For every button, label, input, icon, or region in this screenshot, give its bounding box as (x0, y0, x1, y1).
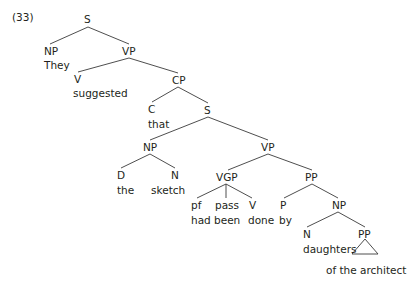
node-n-embedded: N (171, 169, 179, 181)
word-suggested: suggested (73, 87, 128, 99)
node-v-main: V (74, 73, 81, 85)
node-pp-inner: PP (358, 228, 371, 240)
phrase-of-the-architect: of the architect (326, 264, 406, 276)
word-been: been (214, 214, 240, 226)
node-s-embedded: S (204, 104, 211, 116)
word-that: that (148, 118, 169, 130)
node-vp-embedded: VP (261, 141, 275, 153)
node-cp: CP (172, 74, 186, 86)
node-pp: PP (305, 171, 318, 183)
node-s-root: S (84, 13, 91, 25)
node-pf: pf (191, 199, 201, 211)
word-by: by (279, 214, 292, 226)
word-daughters: daughters (303, 243, 356, 255)
node-np-embedded: NP (143, 141, 157, 153)
node-np-subject: NP (44, 45, 58, 57)
node-v-embedded: V (249, 199, 256, 211)
node-n-object: N (303, 228, 311, 240)
node-vgp: VGP (216, 171, 238, 183)
word-sketch: sketch (151, 184, 185, 196)
word-they: They (44, 59, 70, 71)
word-done: done (248, 214, 274, 226)
node-c: C (148, 103, 155, 115)
node-p: P (280, 199, 286, 211)
example-number: (33) (12, 11, 34, 23)
node-np-object: NP (332, 199, 346, 211)
node-pass: pass (215, 199, 239, 211)
word-had: had (191, 214, 211, 226)
node-d: D (117, 169, 125, 181)
syntax-tree-diagram: (33) S NP They VP V suggested CP C that … (0, 0, 411, 288)
word-the: the (117, 184, 134, 196)
node-vp-main: VP (122, 45, 136, 57)
